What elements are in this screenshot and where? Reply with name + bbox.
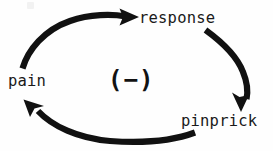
arrow-pinprick-to-pain: [24, 100, 196, 142]
node-label-pinprick: pinprick: [181, 114, 257, 130]
arrow-pain-to-response-shaft: [23, 15, 127, 69]
node-label-response: response: [139, 11, 215, 27]
feedback-loop-diagram: response pinprick pain (−): [0, 0, 273, 151]
negative-feedback-sign: (−): [108, 66, 154, 94]
node-label-pain: pain: [8, 74, 46, 90]
arrow-response-to-pinprick-shaft: [206, 30, 248, 99]
arrow-response-to-pinprick: [206, 30, 250, 112]
arrow-pinprick-to-pain-shaft: [38, 111, 195, 142]
arrow-pain-to-response: [23, 9, 140, 69]
